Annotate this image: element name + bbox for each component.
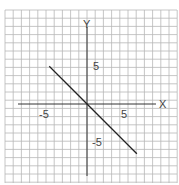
x-tick-pos5: 5 [121,109,127,120]
x-axis-label: X [159,99,166,110]
x-tick-neg5: -5 [39,109,49,120]
y-axis-label: Y [83,19,90,30]
y-tick-pos5: 5 [93,61,99,72]
grid-lines [5,10,177,183]
y-tick-neg5: -5 [92,137,102,148]
